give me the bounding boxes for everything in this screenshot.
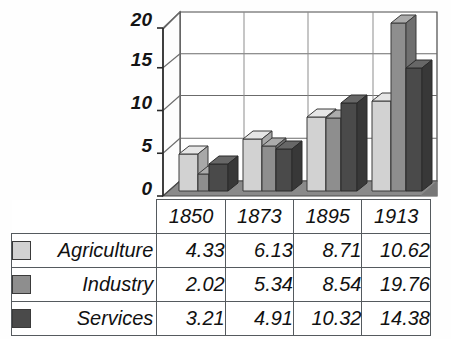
column-header-1850: 1850	[157, 200, 225, 234]
cell-services-1850: 3.21	[157, 302, 225, 336]
chart-data-table: 1850 1873 1895 1913 Agriculture 4.33 6.1…	[11, 199, 431, 336]
bar-1873-services	[276, 141, 302, 191]
column-header-1895: 1895	[294, 200, 362, 234]
column-header-1913: 1913	[362, 200, 431, 234]
chart-figure: 20 15 10 5 0	[0, 0, 451, 339]
legend-cell-industry: Industry	[12, 268, 157, 302]
cell-industry-1913: 19.76	[362, 268, 431, 302]
y-tick-0: 0	[141, 178, 152, 199]
y-tick-10: 10	[131, 92, 153, 113]
cell-industry-1850: 2.02	[157, 268, 225, 302]
y-tick-20: 20	[130, 9, 153, 30]
cell-agriculture-1850: 4.33	[157, 234, 225, 268]
y-axis-line	[157, 28, 163, 196]
cell-agriculture-1895: 8.71	[294, 234, 362, 268]
cell-services-1873: 4.91	[225, 302, 293, 336]
y-tick-15: 15	[131, 49, 153, 70]
table-header-row: 1850 1873 1895 1913	[12, 200, 431, 234]
table-row: Services 3.21 4.91 10.32 14.38	[12, 302, 431, 336]
swatch-agriculture-icon	[12, 241, 31, 260]
series-label-agriculture: Agriculture	[37, 239, 156, 262]
chart-plot-area: 20 15 10 5 0	[0, 0, 451, 212]
table-row: Industry 2.02 5.34 8.54 19.76	[12, 268, 431, 302]
cell-industry-1873: 5.34	[225, 268, 293, 302]
cell-services-1895: 10.32	[294, 302, 362, 336]
plot-left-wall	[163, 12, 180, 196]
legend-cell-agriculture: Agriculture	[12, 234, 157, 268]
cell-agriculture-1873: 6.13	[225, 234, 293, 268]
column-header-1873: 1873	[225, 200, 293, 234]
table-row: Agriculture 4.33 6.13 8.71 10.62	[12, 234, 431, 268]
bar-1913-services	[406, 60, 432, 191]
bar-chart-3d: 20 15 10 5 0	[0, 0, 451, 212]
series-label-services: Services	[37, 307, 156, 330]
cell-agriculture-1913: 10.62	[362, 234, 431, 268]
cell-services-1913: 14.38	[362, 302, 431, 336]
bar-1895-services	[341, 95, 367, 191]
swatch-industry-icon	[12, 275, 31, 294]
y-axis-tick-labels: 20 15 10 5 0	[130, 9, 153, 199]
legend-cell-services: Services	[12, 302, 157, 336]
series-label-industry: Industry	[37, 273, 156, 296]
table-header-blank	[12, 200, 157, 234]
y-tick-5: 5	[141, 135, 152, 156]
cell-industry-1895: 8.54	[294, 268, 362, 302]
swatch-services-icon	[12, 309, 31, 328]
bar-1850-services	[209, 156, 238, 191]
